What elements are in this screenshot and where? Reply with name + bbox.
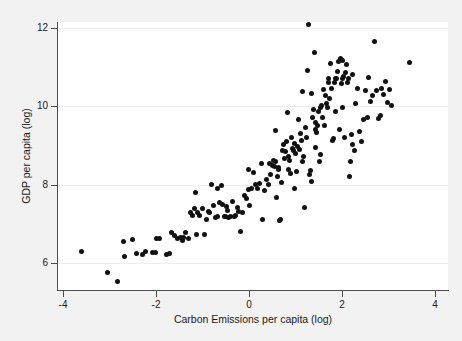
- data-point: [299, 138, 304, 143]
- data-point: [300, 159, 305, 164]
- data-point: [344, 62, 349, 67]
- x-tick-label-2: 2: [327, 299, 357, 310]
- scatter-plot-figure: 681012 -4-2024 Carbon Emissions per capi…: [0, 0, 462, 341]
- x-axis-line: [57, 290, 449, 291]
- data-point: [322, 123, 327, 128]
- data-point: [372, 39, 377, 44]
- data-point: [306, 22, 311, 27]
- data-point: [193, 190, 198, 195]
- data-point: [298, 131, 303, 136]
- data-point: [115, 279, 120, 284]
- data-point: [347, 174, 352, 179]
- data-point: [289, 135, 294, 140]
- y-tick-6: [51, 263, 57, 264]
- data-point: [309, 91, 314, 96]
- x-tick-label-0: 0: [234, 299, 264, 310]
- data-point: [157, 236, 162, 241]
- data-point: [297, 147, 302, 152]
- data-point: [325, 105, 330, 110]
- x-tick-label--4: -4: [48, 299, 78, 310]
- data-point: [308, 168, 313, 173]
- data-point: [285, 110, 290, 115]
- data-point: [247, 203, 252, 208]
- data-point: [353, 101, 358, 106]
- data-point: [379, 86, 384, 91]
- data-point: [257, 181, 262, 186]
- data-point: [255, 186, 260, 191]
- data-point: [200, 206, 205, 211]
- data-point: [317, 159, 322, 164]
- data-point: [300, 89, 305, 94]
- data-point: [350, 142, 355, 147]
- data-point: [328, 61, 333, 66]
- y-tick-label-6: 6: [28, 258, 48, 268]
- data-point: [153, 250, 158, 255]
- data-point: [407, 60, 412, 65]
- data-point: [327, 96, 332, 101]
- data-point: [357, 129, 362, 134]
- data-point: [284, 139, 289, 144]
- data-point: [279, 180, 284, 185]
- data-point: [302, 205, 307, 210]
- data-point: [329, 86, 334, 91]
- data-point: [122, 254, 127, 259]
- data-point: [215, 214, 220, 219]
- data-point: [296, 117, 301, 122]
- data-point: [381, 92, 386, 97]
- x-tick-0: [249, 291, 250, 297]
- data-point: [315, 123, 320, 128]
- data-point: [274, 195, 279, 200]
- data-point: [202, 232, 207, 237]
- data-point: [335, 69, 340, 74]
- data-point: [186, 236, 191, 241]
- data-point: [366, 75, 371, 80]
- data-point: [143, 249, 148, 254]
- y-tick-12: [51, 28, 57, 29]
- data-point: [292, 141, 297, 146]
- data-point: [349, 132, 354, 137]
- data-point: [340, 105, 345, 110]
- data-point: [134, 251, 139, 256]
- data-point: [266, 182, 271, 187]
- data-point: [273, 128, 278, 133]
- y-tick-8: [51, 185, 57, 186]
- data-point: [209, 182, 214, 187]
- data-point: [287, 158, 292, 163]
- data-point: [313, 145, 318, 150]
- data-point: [320, 115, 325, 120]
- data-point: [383, 79, 388, 84]
- data-point: [339, 81, 344, 86]
- data-point: [204, 217, 209, 222]
- data-point: [301, 154, 306, 159]
- data-point: [359, 139, 364, 144]
- data-point: [230, 199, 235, 204]
- data-point: [374, 88, 379, 93]
- y-axis-line: [57, 22, 58, 291]
- data-point: [292, 186, 297, 191]
- plot-panel: [57, 22, 448, 290]
- data-point: [267, 161, 272, 166]
- data-point: [368, 99, 373, 104]
- data-point: [264, 177, 269, 182]
- y-tick-10: [51, 106, 57, 107]
- data-point: [288, 171, 293, 176]
- data-point: [311, 107, 316, 112]
- data-point: [275, 174, 280, 179]
- data-point: [309, 179, 314, 184]
- data-point: [363, 88, 368, 93]
- data-point: [350, 72, 355, 77]
- data-point: [225, 208, 230, 213]
- data-point: [268, 172, 273, 177]
- data-point: [249, 186, 254, 191]
- data-point: [342, 135, 347, 140]
- x-tick-label-4: 4: [420, 299, 450, 310]
- data-point: [304, 135, 309, 140]
- data-point: [389, 103, 394, 108]
- data-point: [183, 230, 188, 235]
- data-point: [326, 80, 331, 85]
- data-point: [121, 239, 126, 244]
- data-point: [194, 232, 199, 237]
- data-point: [355, 86, 360, 91]
- data-point: [246, 167, 251, 172]
- data-point: [370, 93, 375, 98]
